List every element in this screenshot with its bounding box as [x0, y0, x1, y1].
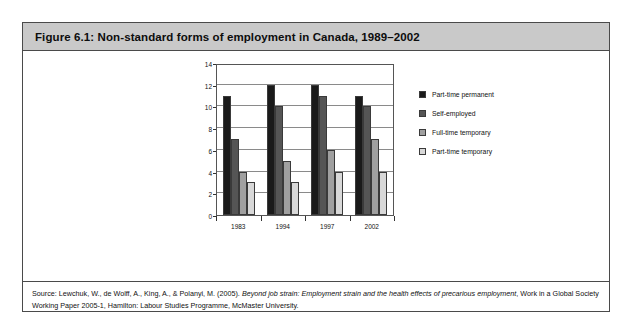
legend-swatch-icon	[419, 110, 426, 117]
bar-group	[267, 65, 299, 215]
x-tick-label: 1997	[307, 223, 347, 230]
y-tick-mark	[213, 86, 216, 87]
y-tick-mark	[213, 64, 216, 65]
x-tick-label: 1983	[218, 223, 258, 230]
bar	[355, 96, 363, 215]
legend-item: Part-time permanent	[419, 91, 494, 98]
legend-item: Part-time temporary	[419, 148, 494, 155]
y-tick-mark	[213, 129, 216, 130]
bar	[379, 172, 387, 215]
bar	[319, 96, 327, 215]
x-axis-labels: 1983199419972002	[216, 223, 394, 230]
bar-group	[355, 65, 387, 215]
legend-label: Part-time permanent	[432, 91, 494, 98]
bar-group	[223, 65, 255, 215]
x-tick-mark	[216, 216, 217, 221]
bar	[283, 161, 291, 215]
y-tick-label: 8	[190, 126, 212, 133]
bar	[239, 172, 247, 215]
y-tick-label: 0	[190, 213, 212, 220]
chart-region: % total employment 02468101214 198319941…	[23, 51, 609, 281]
chart-legend: Part-time permanentSelf-employedFull-tim…	[419, 91, 494, 155]
x-tick-mark	[305, 216, 306, 221]
legend-swatch-icon	[419, 129, 426, 136]
bar	[275, 106, 283, 215]
y-tick-label: 4	[190, 169, 212, 176]
bar	[291, 182, 299, 215]
x-tick-mark	[261, 216, 262, 221]
legend-label: Self-employed	[432, 110, 475, 117]
source-prefix: Source: Lewchuk, W., de Wolff, A., King,…	[32, 289, 242, 298]
source-caption: Source: Lewchuk, W., de Wolff, A., King,…	[23, 282, 609, 311]
bar	[311, 85, 319, 215]
bar-group	[311, 65, 343, 215]
y-tick-label: 6	[190, 147, 212, 154]
bar	[371, 139, 379, 215]
bar	[223, 96, 231, 215]
bars-layer	[217, 65, 393, 215]
legend-label: Part-time temporary	[432, 148, 492, 155]
plot-area	[216, 64, 394, 216]
bar	[335, 172, 343, 215]
source-title: Beyond job strain: Employment strain and…	[242, 289, 516, 298]
figure-frame: Figure 6.1: Non-standard forms of employ…	[22, 22, 610, 312]
y-tick-label: 2	[190, 191, 212, 198]
y-tick-mark	[213, 151, 216, 152]
x-tick-label: 1994	[263, 223, 303, 230]
y-tick-label: 10	[190, 104, 212, 111]
x-tick-label: 2002	[352, 223, 392, 230]
bar	[231, 139, 239, 215]
legend-item: Self-employed	[419, 110, 494, 117]
legend-swatch-icon	[419, 148, 426, 155]
x-tick-mark	[350, 216, 351, 221]
x-tick-mark	[394, 216, 395, 221]
legend-swatch-icon	[419, 91, 426, 98]
y-tick-mark	[213, 173, 216, 174]
y-tick-mark	[213, 107, 216, 108]
y-tick-label: 14	[190, 61, 212, 68]
legend-label: Full-time temporary	[432, 129, 491, 136]
bar	[247, 182, 255, 215]
y-tick-mark	[213, 194, 216, 195]
bar	[267, 85, 275, 215]
figure-title-bar: Figure 6.1: Non-standard forms of employ…	[23, 23, 609, 51]
figure-title: Figure 6.1: Non-standard forms of employ…	[23, 31, 420, 43]
bar	[327, 150, 335, 215]
y-tick-label: 12	[190, 82, 212, 89]
legend-item: Full-time temporary	[419, 129, 494, 136]
bar	[363, 106, 371, 215]
